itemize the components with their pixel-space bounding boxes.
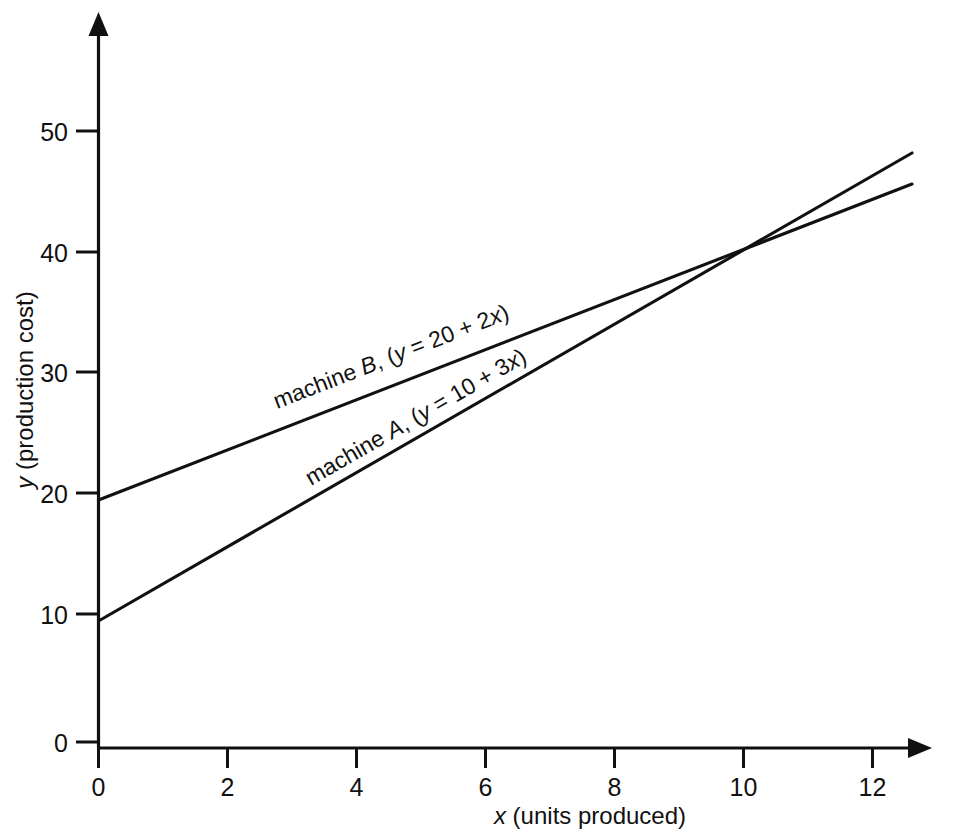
x-axis-arrow-icon [908,738,932,758]
y-tick-label-30: 30 [40,359,68,387]
y-tick-label-10: 10 [40,601,68,629]
x-tick-label-0: 0 [92,773,106,801]
y-axis-arrow-icon [89,12,109,36]
y-tick-label-40: 40 [40,239,68,267]
series-label-a-eq: = 10 + 3 [422,352,514,420]
x-axis-title-rest: (units produced) [506,802,686,829]
x-tick-label-6: 6 [479,773,493,801]
y-tick-label-0: 0 [54,729,68,757]
series-line-machine-a [99,153,913,621]
series-label-a-prefix: machine [301,421,395,490]
series-line-machine-b [99,184,913,500]
y-axis-title-rest: (production cost) [11,291,38,476]
x-ticks-group: 0 2 4 6 8 10 12 [92,748,887,801]
x-tick-label-2: 2 [221,773,235,801]
y-axis-title: y (production cost) [11,291,38,490]
x-tick-label-12: 12 [859,773,887,801]
x-tick-label-10: 10 [730,773,758,801]
y-tick-label-20: 20 [40,480,68,508]
x-axis-title-var: x [493,802,507,829]
x-tick-label-4: 4 [350,773,364,801]
x-tick-label-8: 8 [608,773,622,801]
series-label-b-eq: = 20 + 2 [401,306,495,363]
y-tick-label-50: 50 [40,118,68,146]
series-label-b-prefix: machine [269,356,365,414]
production-cost-line-chart: 50 40 30 20 10 0 0 2 4 6 8 10 12 [0,0,956,835]
y-ticks-group: 50 40 30 20 10 0 [40,118,98,757]
chart-page: 50 40 30 20 10 0 0 2 4 6 8 10 12 [0,0,956,835]
series-group [99,153,913,621]
x-axis-title: x (units produced) [493,802,686,829]
